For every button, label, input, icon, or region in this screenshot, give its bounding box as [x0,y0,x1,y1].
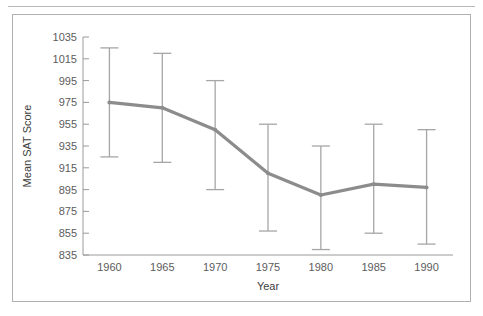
sat-score-line-chart: 83585587589591593595597599510151035 Mean… [13,15,470,301]
error-bar [365,124,383,233]
y-tick-label: 875 [59,205,77,217]
y-tick-label: 995 [59,75,77,87]
y-tick-label: 895 [59,184,77,196]
data-point [107,100,111,104]
x-tick-label: 1970 [203,261,227,273]
x-axis-tick-labels: 1960196519701975198019851990 [97,261,439,273]
y-tick-label: 835 [59,249,77,261]
x-tick-label: 1980 [309,261,333,273]
y-tick-label: 855 [59,227,77,239]
y-tick-label: 955 [59,118,77,130]
x-tick-label: 1960 [97,261,121,273]
x-axis-title: Year [257,280,280,292]
data-point [213,128,217,132]
error-bar [259,124,277,231]
figure-frame: 83585587589591593595597599510151035 Mean… [12,14,471,302]
y-axis-tick-labels: 83585587589591593595597599510151035 [53,31,77,261]
x-tick-label: 1985 [361,261,385,273]
x-axis: 1960196519701975198019851990 Year [83,255,453,292]
y-axis: 83585587589591593595597599510151035 Mean… [21,31,89,261]
x-tick-label: 1990 [414,261,438,273]
error-bar [312,146,330,250]
x-tick-label: 1965 [150,261,174,273]
x-tick-label: 1975 [256,261,280,273]
y-axis-tick-marks [83,37,89,255]
y-tick-label: 975 [59,96,77,108]
y-tick-label: 935 [59,140,77,152]
error-bars [100,48,435,250]
top-divider-rule [8,6,475,7]
data-point [372,182,376,186]
data-point [319,193,323,197]
y-tick-label: 1015 [53,53,77,65]
y-axis-title: Mean SAT Score [21,105,33,188]
data-point [160,106,164,110]
data-point [266,171,270,175]
data-point [425,185,429,189]
y-tick-label: 915 [59,162,77,174]
y-tick-label: 1035 [53,31,77,43]
